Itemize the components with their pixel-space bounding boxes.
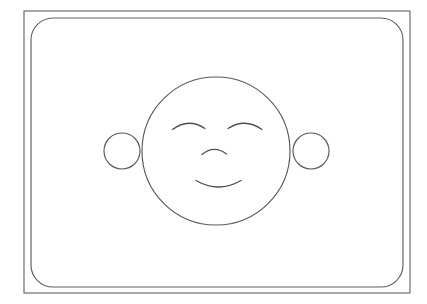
outer-rectangle-border — [24, 11, 410, 293]
right-ear-circle — [293, 133, 329, 169]
left-ear-circle — [104, 133, 140, 169]
drawing-canvas — [0, 0, 427, 304]
smiley-face-illustration — [0, 0, 427, 304]
nose-arc — [202, 149, 227, 154]
left-eye-arc — [173, 123, 206, 129]
face-circle — [142, 77, 290, 225]
inner-rounded-rectangle — [31, 18, 403, 287]
right-eye-arc — [228, 123, 262, 129]
mouth-smile-arc — [196, 181, 241, 188]
